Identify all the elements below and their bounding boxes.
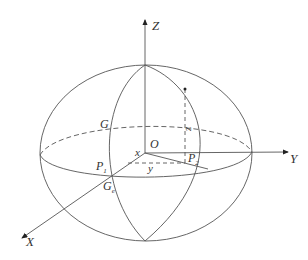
ellipsoid-diagram: Z Y X O G Ge P1 P2 x y z — [0, 0, 308, 260]
p1-label: P1 — [95, 159, 107, 175]
z-coordinate-label: z — [181, 126, 193, 132]
g-label: G — [100, 117, 109, 131]
p2-label: P2 — [187, 151, 199, 167]
y-axis — [145, 152, 288, 153]
y-coordinate-label: y — [147, 162, 153, 174]
y-axis-label: Y — [290, 151, 299, 166]
equator-front — [40, 152, 252, 177]
x-axis-label: X — [25, 234, 35, 249]
origin-label: O — [150, 137, 159, 151]
diagram-canvas: Z Y X O G Ge P1 P2 x y z — [0, 0, 308, 260]
surface-point — [184, 88, 187, 91]
equator-back — [40, 126, 252, 155]
x-coordinate-label: x — [134, 146, 140, 158]
z-axis-label: Z — [152, 18, 160, 33]
x-axis — [22, 153, 145, 238]
